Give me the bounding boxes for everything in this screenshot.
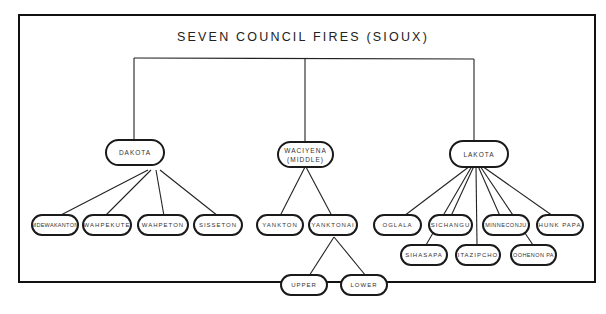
band-itazipcho: ITAZIPCHO	[455, 244, 501, 266]
band-sichangu: SICHANGU	[428, 214, 473, 236]
band-sisseton: SISSETON	[193, 214, 243, 236]
group-waciyena: WACIYENA (MIDDLE)	[277, 141, 334, 168]
group-lakota: LAKOTA	[449, 140, 509, 168]
group-sublabel: (MIDDLE)	[287, 155, 324, 164]
division-lower: LOWER	[340, 274, 388, 296]
division-upper: UPPER	[280, 274, 328, 296]
band-hunkpapa: HUNK PAPA	[536, 214, 584, 236]
band-wahpekute: WAHPEKUTE	[82, 214, 132, 236]
band-minneconju: MINNECONJU	[482, 214, 530, 236]
band-oohenonpa: OOHENON PA	[510, 244, 557, 266]
group-label: DAKOTA	[119, 148, 151, 157]
band-yanktonai: YANKTONAI	[308, 214, 358, 236]
band-sihasapa: SIHASAPA	[400, 244, 448, 266]
band-yankton: YANKTON	[256, 214, 304, 236]
group-dakota: DAKOTA	[105, 139, 165, 166]
group-label: WACIYENA	[284, 146, 326, 155]
group-label: LAKOTA	[463, 150, 494, 159]
band-mdewakanton: MDEWAKANTON	[31, 214, 79, 236]
band-wahpeton: WAHPETON	[137, 214, 189, 236]
band-oglala: OGLALA	[373, 214, 422, 236]
